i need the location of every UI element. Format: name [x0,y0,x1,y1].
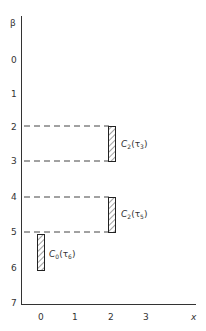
bar-c2-tau3 [109,127,116,162]
x-axis-label: x [190,312,197,322]
y-tick-7: 7 [11,298,17,308]
y-tick-4: 4 [11,192,17,202]
bar-label-c2-tau5: C2(τ5) [121,209,147,220]
x-tick-0: 0 [38,312,44,322]
x-tick-2: 2 [108,312,114,322]
bar-label-c2-tau3: C2(τ3) [121,139,147,150]
y-tick-3: 3 [11,156,17,166]
y-tick-2: 2 [11,122,17,132]
y-tick-0: 0 [11,55,17,65]
y-axis-label: β [10,18,16,28]
bar-label-c0-tau6: C0(τ6) [49,249,75,260]
diagram-canvas: β 0 1 2 3 4 5 6 7 0 1 2 3 x C2(τ3) C2(τ5… [0,0,206,331]
x-tick-1: 1 [72,312,78,322]
y-tick-1: 1 [11,89,17,99]
y-tick-6: 6 [11,263,17,273]
x-tick-3: 3 [143,312,149,322]
y-tick-5: 5 [11,227,17,237]
bar-c2-tau5 [109,198,116,233]
bar-c0-tau6 [38,235,45,271]
